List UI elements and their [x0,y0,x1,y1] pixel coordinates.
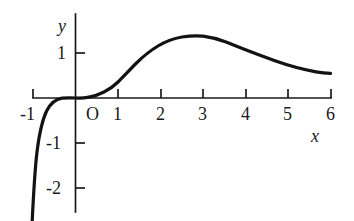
x-tick-label-1: 1 [113,105,122,123]
x-tick-label--1: -1 [20,105,35,123]
y-tick-label--2: -2 [46,179,61,197]
x-tick-label-5: 5 [283,105,292,123]
x-tick-label-6: 6 [326,105,335,123]
y-tick-label--1: -1 [46,134,61,152]
y-tick-label-1: 1 [57,44,66,62]
function-curve [32,36,330,221]
x-tick-label-4: 4 [241,105,250,123]
origin-label: O [86,105,99,123]
x-axis-label: x [311,127,319,145]
x-tick-label-3: 3 [198,105,207,123]
x-tick-label-2: 2 [156,105,165,123]
graph-figure: y x O -1 1 2 3 4 5 6 1 -1 -2 [0,0,354,221]
y-axis-label: y [58,17,66,35]
